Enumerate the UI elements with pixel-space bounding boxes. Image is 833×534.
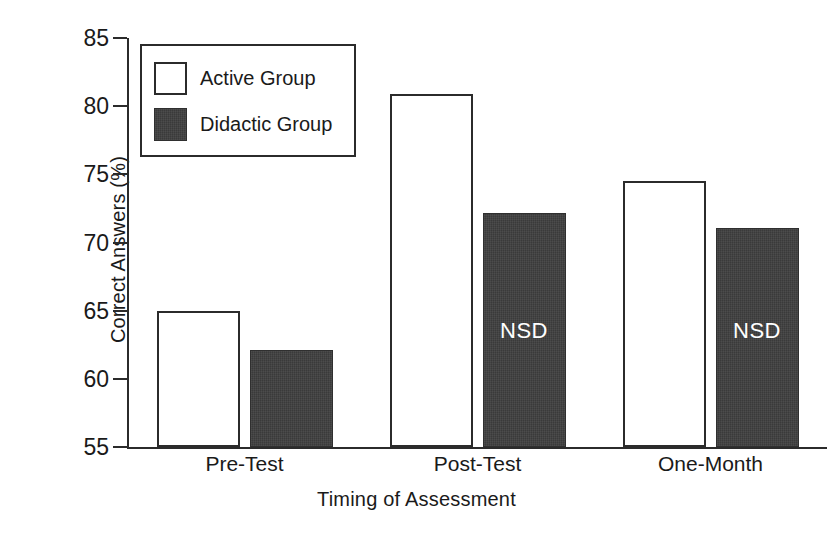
x-axis-category-label: Pre-Test (145, 452, 345, 476)
legend-label-active-group: Active Group (200, 67, 316, 90)
x-axis-category-label: Post-Test (378, 452, 578, 476)
bar-post-test-didactic-group: NSD (483, 213, 566, 447)
bar-one-month-didactic-group: NSD (716, 228, 799, 447)
legend-item-didactic-group: Didactic Group (154, 101, 354, 147)
x-axis-category-label: One-Month (611, 452, 811, 476)
legend-item-active-group: Active Group (154, 55, 354, 101)
filled-square-swatch-icon (154, 108, 187, 141)
bar-pre-test-didactic-group: NSD (250, 350, 333, 447)
bar-one-month-active-group (623, 181, 706, 447)
bar-annotation-nsd: NSD (484, 318, 565, 344)
bar-chart-figure: Correct Answers (%) Timing of Assessment… (0, 0, 833, 534)
open-square-swatch-icon (154, 62, 187, 95)
bar-pre-test-active-group (157, 311, 240, 447)
bar-post-test-active-group (390, 94, 473, 447)
bar-annotation-nsd: NSD (717, 318, 798, 344)
legend-label-didactic-group: Didactic Group (200, 113, 332, 136)
chart-legend: Active Group Didactic Group (140, 44, 356, 157)
bar-annotation-nsd: NSD (251, 318, 332, 344)
